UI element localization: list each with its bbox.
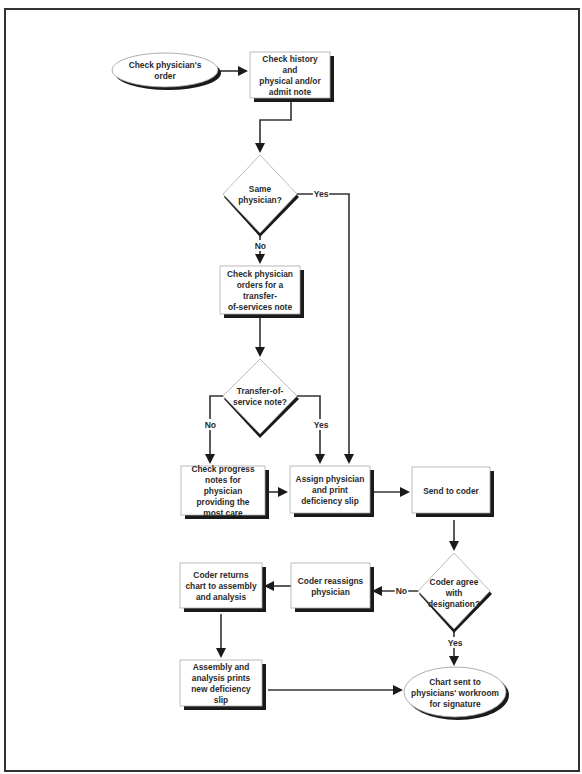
node-n11-line: and analysis	[196, 591, 246, 602]
node-n12-line: new deficiency slip	[183, 683, 259, 705]
node-n4-label: Check physician orders for a transfer- o…	[223, 266, 297, 314]
node-n12-line: analysis prints	[192, 672, 251, 683]
node-n11-line: chart to assembly	[185, 580, 256, 591]
node-n9-label: Coder agree with designation?	[419, 579, 489, 605]
node-n13-label: Chart sent to physicians' workroom for s…	[410, 670, 500, 714]
node-n10-label: Coder reassigns physician	[296, 563, 366, 608]
edge-label-no-coder: No	[395, 585, 408, 596]
node-n11-label: Coder returns chart to assembly and anal…	[183, 563, 259, 608]
node-n10-line: Coder reassigns	[298, 575, 364, 586]
node-n6-label: Check progress notes for physician provi…	[186, 466, 260, 515]
edge-n2-n3	[260, 98, 291, 151]
edge-label-yes-transfer: Yes	[313, 419, 330, 430]
node-n8-label: Send to coder	[417, 467, 486, 513]
node-n7-line: Assign physician	[296, 473, 365, 484]
node-n5-label: Transfer-of- service note?	[227, 383, 292, 409]
node-n6-line: notes for physician	[186, 474, 260, 496]
node-n6-line: most care	[203, 507, 243, 518]
edge-label-yes-same-physician: Yes	[313, 188, 330, 199]
node-n4-line: orders for a transfer-	[223, 279, 297, 301]
node-n7-label: Assign physician and print deficiency sl…	[295, 466, 365, 513]
node-n13-line: physicians' workroom	[411, 687, 499, 698]
node-n2-label: Check history and physical and/or admit …	[255, 52, 325, 98]
node-n10-line: physician	[311, 586, 350, 597]
node-n2-line: Check history and	[255, 53, 325, 75]
node-n11-line: Coder returns	[193, 569, 248, 580]
node-n6-line: Check progress	[191, 463, 254, 474]
edge-label-no-same-physician: No	[254, 240, 267, 251]
node-n4-line: Check physician	[227, 268, 293, 279]
node-n4-line: of-services note	[228, 301, 292, 312]
node-n9-line: with designation?	[419, 587, 489, 609]
node-n6-line: providing the	[197, 496, 250, 507]
node-n12-line: Assembly and	[193, 661, 250, 672]
node-n7-line: and print	[312, 484, 348, 495]
node-n7-line: deficiency slip	[301, 495, 359, 506]
node-n9-line: Coder agree	[430, 576, 479, 587]
node-n12-label: Assembly and analysis prints new deficie…	[183, 660, 259, 706]
edge-label-yes-coder: Yes	[447, 637, 464, 648]
node-n13-line: for signature	[429, 698, 480, 709]
node-n1-label: Check physician's order	[118, 58, 211, 82]
node-n2-line: admit note	[269, 86, 311, 97]
node-n3-label: Same physician?	[227, 186, 292, 202]
node-n13-line: Chart sent to	[429, 676, 481, 687]
edge-label-no-transfer: No	[204, 419, 217, 430]
node-n5-line: service note?	[233, 396, 287, 407]
node-n2-line: physical and/or	[259, 75, 320, 86]
node-n5-line: Transfer-of-	[237, 385, 283, 396]
